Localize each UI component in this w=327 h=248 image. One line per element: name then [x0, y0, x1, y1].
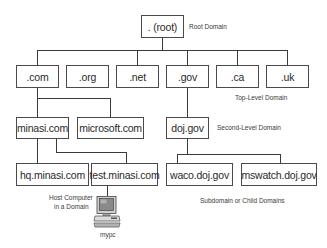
- connector-hq: [37, 138, 38, 163]
- connector-minasi-test-a: [56, 138, 57, 152]
- connector-host: [107, 185, 108, 196]
- second-level-domain-label: Second-Level Domain: [217, 124, 281, 131]
- tld-node-uk: .uk: [266, 65, 309, 88]
- connector-com-bus: [37, 98, 110, 99]
- connector-minasi-test-c: [126, 152, 127, 163]
- subdomain-node-hq: hq.minasi.com: [16, 163, 89, 186]
- connector-uk: [287, 50, 288, 65]
- connector-minasi-test-b: [56, 152, 126, 153]
- root-node: . (root): [141, 15, 184, 38]
- connector-waco: [177, 154, 178, 163]
- host-name-label: mypc: [100, 231, 116, 238]
- connector-gov: [187, 50, 188, 65]
- tld-node-ca: .ca: [216, 65, 259, 88]
- connector-ca: [237, 50, 238, 65]
- tld-node-org: .org: [66, 65, 109, 88]
- connector-gov-down: [187, 87, 188, 117]
- connector-root-down: [162, 37, 163, 50]
- connector-doj-down: [187, 138, 188, 154]
- connector-doj-bus: [177, 154, 280, 155]
- tld-node-net: .net: [116, 65, 159, 88]
- connector-tld-bus: [37, 50, 288, 51]
- root-domain-label: Root Domain: [189, 23, 227, 30]
- connector-com-down: [37, 87, 38, 117]
- host-label-line2: in a Domain: [54, 203, 89, 210]
- subdomain-node-test: test.minasi.com: [91, 163, 158, 186]
- subdomain-node-waco: waco.doj.gov: [166, 163, 233, 186]
- sld-node-minasi: minasi.com: [16, 117, 69, 139]
- computer-icon: [93, 196, 121, 230]
- connector-mswatch: [280, 154, 281, 163]
- subdomain-label: Subdomain or Child Domains: [200, 197, 285, 204]
- top-level-domain-label: Top-Level Domain: [235, 94, 287, 101]
- connector-net: [137, 50, 138, 65]
- connector-microsoft: [110, 98, 111, 117]
- tld-node-com: .com: [16, 65, 59, 88]
- host-label-line1: Host Computer: [49, 194, 93, 201]
- subdomain-node-mswatch: mswatch.doj.gov: [241, 163, 317, 186]
- sld-node-doj: doj.gov: [166, 117, 209, 139]
- connector-com: [37, 50, 38, 65]
- tld-node-gov: .gov: [166, 65, 209, 88]
- sld-node-microsoft: microsoft.com: [77, 117, 144, 139]
